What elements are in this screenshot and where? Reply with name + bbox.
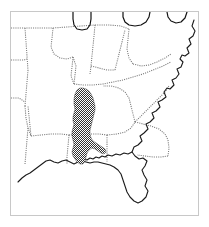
state-border-segment — [11, 98, 25, 102]
state-border-segment — [90, 25, 95, 74]
state-border-segment — [91, 66, 115, 70]
coastline-group — [18, 20, 195, 203]
shaded-range-area — [72, 88, 106, 164]
state-border-segment — [135, 122, 169, 156]
state-border-segment — [74, 62, 171, 85]
state-border-segment — [25, 128, 28, 164]
state-border-segment — [127, 29, 133, 64]
state-border-segment — [28, 106, 31, 136]
map-canvas — [11, 12, 198, 215]
map-frame-border — [10, 11, 199, 216]
great-lakes-outline-icon — [73, 12, 187, 30]
state-border-segment — [133, 54, 171, 66]
state-border-segment — [103, 86, 135, 122]
figure-caption — [10, 218, 199, 226]
state-border-segment — [67, 135, 69, 164]
range-overlay-group — [72, 88, 106, 164]
state-border-segment — [137, 155, 168, 157]
state-border-segment — [115, 30, 125, 70]
great-lakes-group — [73, 12, 187, 30]
range-map-figure — [0, 0, 209, 227]
state-border-segment — [51, 28, 73, 59]
state-border-segment — [73, 57, 76, 84]
state-border-segment — [31, 134, 69, 136]
state-border-segment — [95, 25, 129, 29]
state-border-segment — [25, 28, 28, 70]
state-border-segment — [107, 122, 135, 135]
state-border-segment — [25, 70, 28, 106]
state-border-segment — [11, 59, 27, 60]
coastline-segment — [18, 20, 195, 203]
state-border-segment — [71, 57, 74, 84]
